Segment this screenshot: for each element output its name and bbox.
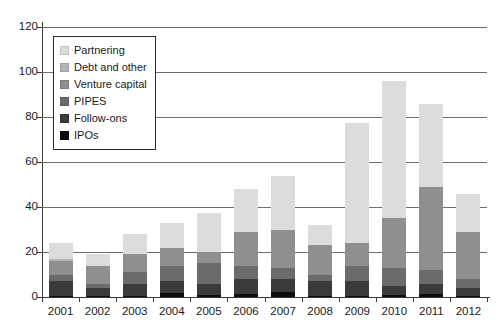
- bar-segment-2010-ipos: [382, 295, 406, 297]
- y-tick-label: 100: [19, 66, 38, 78]
- bar-segment-2007-ipos: [271, 292, 295, 297]
- x-tick-label-2002: 2002: [79, 306, 116, 318]
- bar-segment-2001-partnering: [49, 243, 73, 259]
- y-tick-label: 40: [25, 201, 38, 213]
- y-tick-label: 20: [25, 246, 38, 258]
- x-tick-mark: [376, 297, 377, 302]
- y-tick-label: 80: [25, 111, 38, 123]
- bar-segment-2002-ipos: [86, 296, 110, 297]
- x-tick-mark: [190, 297, 191, 302]
- x-tick-mark: [116, 297, 117, 302]
- x-tick-mark: [42, 297, 43, 302]
- bar-segment-2006-partnering: [234, 189, 258, 232]
- bar-2008: [308, 27, 332, 297]
- bar-segment-2012-partnering: [456, 194, 480, 232]
- bar-segment-2002-follow-ons: [86, 288, 110, 296]
- bar-segment-2001-debt-and-other: [49, 259, 73, 261]
- bar-segment-2001-pipes: [49, 275, 73, 282]
- bar-segment-2009-ipos: [345, 296, 369, 297]
- bar-segment-2012-venture-capital: [456, 232, 480, 279]
- bar-2006: [234, 27, 258, 297]
- bar-segment-2003-ipos: [123, 296, 147, 297]
- bar-2007: [271, 27, 295, 297]
- bar-2004: [160, 27, 184, 297]
- bar-segment-2008-partnering: [308, 225, 332, 245]
- x-tick-label-2006: 2006: [227, 306, 264, 318]
- legend-swatch-icon: [60, 97, 69, 106]
- bar-segment-2002-partnering: [86, 254, 110, 265]
- bar-2009: [345, 27, 369, 297]
- legend-item-venture-capital: Venture capital: [60, 76, 149, 93]
- legend: PartneringDebt and otherVenture capitalP…: [53, 36, 156, 150]
- bar-segment-2008-pipes: [308, 275, 332, 282]
- bar-segment-2004-pipes: [160, 266, 184, 282]
- legend-item-partnering: Partnering: [60, 42, 149, 59]
- legend-label: Debt and other: [74, 62, 147, 73]
- bar-segment-2005-venture-capital: [197, 252, 221, 263]
- bar-segment-2003-follow-ons: [123, 284, 147, 297]
- y-tick-label: 0: [32, 291, 38, 303]
- bar-segment-2006-ipos: [234, 294, 258, 297]
- bar-segment-2009-partnering: [345, 123, 369, 243]
- bar-segment-2002-venture-capital: [86, 266, 110, 284]
- x-tick-mark: [153, 297, 154, 302]
- bar-segment-2005-partnering: [197, 213, 221, 252]
- bar-segment-2005-ipos: [197, 295, 221, 297]
- x-tick-mark: [339, 297, 340, 302]
- bar-segment-2003-pipes: [123, 272, 147, 283]
- bar-segment-2011-pipes: [419, 270, 443, 284]
- legend-label: Follow-ons: [74, 113, 127, 124]
- x-tick-label-2012: 2012: [450, 306, 487, 318]
- legend-label: Partnering: [74, 45, 125, 56]
- bar-segment-2011-partnering: [419, 104, 443, 187]
- bar-segment-2004-venture-capital: [160, 248, 184, 266]
- bar-2011: [419, 27, 443, 297]
- x-tick-label-2003: 2003: [116, 306, 153, 318]
- bar-segment-2005-follow-ons: [197, 284, 221, 296]
- bar-segment-2004-ipos: [160, 293, 184, 298]
- legend-item-pipes: PIPES: [60, 93, 149, 110]
- legend-swatch-icon: [60, 46, 69, 55]
- y-tick-label: 120: [19, 21, 38, 33]
- legend-swatch-icon: [60, 80, 69, 89]
- bar-segment-2012-ipos: [456, 296, 480, 297]
- x-tick-mark: [487, 297, 488, 302]
- bar-segment-2008-ipos: [308, 296, 332, 297]
- bar-segment-2001-venture-capital: [49, 261, 73, 275]
- x-tick-mark: [302, 297, 303, 302]
- x-tick-label-2011: 2011: [413, 306, 450, 318]
- legend-swatch-icon: [60, 63, 69, 72]
- bar-segment-2010-pipes: [382, 268, 406, 286]
- bar-segment-2010-partnering: [382, 81, 406, 218]
- bar-segment-2008-follow-ons: [308, 281, 332, 296]
- bar-segment-2007-pipes: [271, 268, 295, 279]
- legend-item-follow-ons: Follow-ons: [60, 110, 149, 127]
- x-tick-mark: [450, 297, 451, 302]
- bar-segment-2004-follow-ons: [160, 281, 184, 292]
- bar-segment-2008-venture-capital: [308, 245, 332, 274]
- legend-swatch-icon: [60, 131, 69, 140]
- y-tick-label: 60: [25, 156, 38, 168]
- x-tick-label-2004: 2004: [153, 306, 190, 318]
- bar-segment-2007-partnering: [271, 176, 295, 230]
- bar-segment-2012-pipes: [456, 279, 480, 288]
- bar-2010: [382, 27, 406, 297]
- bar-segment-2011-follow-ons: [419, 284, 443, 294]
- x-tick-label-2009: 2009: [339, 306, 376, 318]
- legend-label: PIPES: [74, 96, 106, 107]
- x-tick-label-2001: 2001: [42, 306, 79, 318]
- x-tick-label-2008: 2008: [302, 306, 339, 318]
- bar-segment-2007-venture-capital: [271, 230, 295, 268]
- bar-2012: [456, 27, 480, 297]
- bar-segment-2007-follow-ons: [271, 279, 295, 292]
- x-tick-label-2005: 2005: [190, 306, 227, 318]
- legend-item-debt-and-other: Debt and other: [60, 59, 149, 76]
- legend-label: IPOs: [74, 130, 98, 141]
- bar-segment-2001-ipos: [49, 296, 73, 297]
- bar-segment-2010-follow-ons: [382, 286, 406, 295]
- x-tick-mark: [79, 297, 80, 302]
- bar-segment-2004-partnering: [160, 223, 184, 248]
- bar-segment-2011-venture-capital: [419, 187, 443, 270]
- legend-swatch-icon: [60, 114, 69, 123]
- bar-segment-2006-pipes: [234, 266, 258, 280]
